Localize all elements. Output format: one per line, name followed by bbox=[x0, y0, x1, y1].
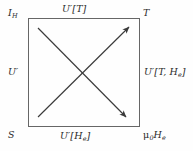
corner-label-top-right: T bbox=[143, 8, 149, 18]
edge-bottom-close: ] bbox=[86, 130, 90, 141]
field-symbol: H bbox=[153, 129, 161, 140]
corner-label-bottom-right: μ0He bbox=[143, 130, 166, 140]
edge-label-top: U′[T] bbox=[62, 4, 86, 14]
mu-subscript: 0 bbox=[149, 134, 153, 142]
edge-right-subscript: e bbox=[178, 71, 182, 79]
ascending-arrow bbox=[38, 27, 129, 117]
edge-label-left: U′ bbox=[8, 67, 18, 77]
edge-label-right: U′[T, He] bbox=[144, 67, 186, 77]
edge-bottom-subscript: e bbox=[83, 135, 87, 143]
corner-label-top-left: IH bbox=[8, 8, 18, 18]
edge-right-close: ] bbox=[182, 66, 186, 77]
edge-bottom-main: U′[H bbox=[60, 130, 83, 141]
field-subscript: e bbox=[162, 134, 166, 142]
corner-label-bottom-left: S bbox=[8, 130, 15, 140]
edge-label-bottom: U′[He] bbox=[60, 131, 90, 141]
legendre-square-diagram: IH T S μ0He U′[T] U′ U′[T, He] U′[He] bbox=[0, 0, 193, 151]
edge-right-main: U′[T, H bbox=[144, 66, 178, 77]
corner-top-left-subscript: H bbox=[12, 12, 18, 20]
